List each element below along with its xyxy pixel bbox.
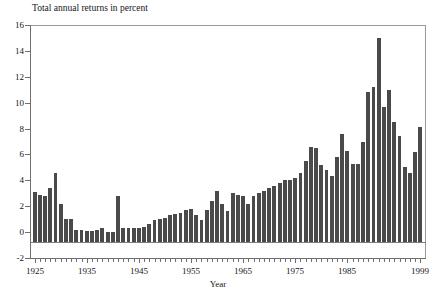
bar: [418, 127, 422, 242]
bar: [106, 232, 110, 242]
bar: [309, 147, 313, 242]
bar: [272, 186, 276, 242]
bar: [345, 151, 349, 242]
bar-series: [0, 0, 436, 303]
bar: [80, 230, 84, 242]
bar: [158, 219, 162, 242]
bar: [142, 227, 146, 242]
bar: [205, 210, 209, 242]
bar: [377, 38, 381, 242]
bar: [137, 228, 141, 242]
bar: [59, 204, 63, 242]
chart-figure: Total annual returns in percent -2024681…: [0, 0, 436, 303]
bar: [403, 167, 407, 242]
bar: [335, 157, 339, 242]
bar: [288, 180, 292, 242]
bar: [74, 230, 78, 242]
bar: [278, 183, 282, 242]
bar: [226, 211, 230, 242]
bar: [189, 209, 193, 242]
bar: [95, 230, 99, 242]
bar: [127, 228, 131, 242]
bar: [304, 161, 308, 242]
bar: [100, 228, 104, 242]
bar: [153, 220, 157, 242]
bar: [340, 134, 344, 242]
bar: [215, 191, 219, 242]
bar: [413, 152, 417, 242]
bar: [361, 142, 365, 243]
bar: [173, 214, 177, 242]
bar: [116, 196, 120, 242]
bar: [147, 224, 151, 242]
x-axis-title: Year: [0, 279, 436, 289]
bar: [366, 92, 370, 242]
bar: [179, 213, 183, 242]
bar: [184, 210, 188, 242]
bar: [283, 180, 287, 242]
bar: [262, 191, 266, 242]
bar: [267, 188, 271, 242]
bar: [293, 178, 297, 242]
bar: [392, 122, 396, 242]
bar: [372, 87, 376, 242]
bar: [314, 148, 318, 242]
bar: [111, 232, 115, 242]
bar: [90, 231, 94, 242]
bar: [54, 173, 58, 242]
bar: [299, 173, 303, 242]
bar: [356, 164, 360, 242]
bar: [252, 196, 256, 242]
bar: [48, 188, 52, 242]
bar: [351, 164, 355, 242]
bar: [319, 165, 323, 242]
bar: [43, 196, 47, 242]
bar: [231, 193, 235, 242]
bar: [210, 201, 214, 242]
bar: [168, 215, 172, 242]
bar: [85, 231, 89, 242]
bar: [200, 220, 204, 242]
bar: [64, 219, 68, 242]
bar: [325, 170, 329, 242]
bar: [408, 173, 412, 242]
bar: [257, 193, 261, 242]
bar: [163, 218, 167, 242]
bar: [330, 176, 334, 242]
bar: [241, 196, 245, 242]
bar: [246, 204, 250, 242]
bar: [38, 195, 42, 242]
bar: [382, 107, 386, 242]
bar: [220, 204, 224, 242]
bar: [33, 192, 37, 242]
bar: [132, 228, 136, 242]
bar: [387, 90, 391, 242]
bar: [194, 215, 198, 242]
bar: [398, 136, 402, 242]
bar: [121, 228, 125, 242]
bar: [236, 195, 240, 242]
bar: [69, 219, 73, 242]
